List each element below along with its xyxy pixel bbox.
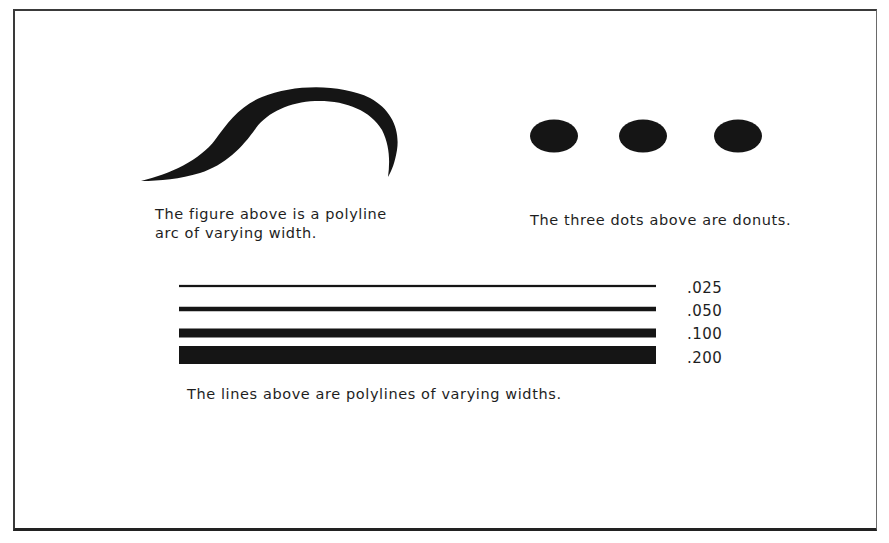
width-label-050: .050 [687, 303, 722, 319]
arc-caption-line-2: arc of varying width. [155, 224, 387, 243]
donut-dot-1 [530, 120, 578, 153]
donut-dot-2 [619, 120, 667, 153]
polyline-width-200 [179, 346, 656, 364]
width-label-025: .025 [687, 280, 722, 296]
width-label-200: .200 [687, 350, 722, 366]
arc-caption-line-1: The figure above is a polyline [155, 205, 387, 224]
donuts-caption: The three dots above are donuts. [530, 211, 791, 230]
donut-dot-3 [714, 120, 762, 153]
polyline-width-025 [179, 285, 656, 287]
polyline-width-050 [179, 307, 656, 312]
figure-artwork [0, 0, 889, 543]
polylines-caption: The lines above are polylines of varying… [187, 385, 562, 404]
polyline-arc-shape [141, 87, 398, 181]
polyline-group [179, 285, 656, 364]
donut-group [530, 120, 762, 153]
arc-caption: The figure above is a polyline arc of va… [155, 205, 387, 243]
polyline-width-100 [179, 329, 656, 338]
width-label-100: .100 [687, 326, 722, 342]
